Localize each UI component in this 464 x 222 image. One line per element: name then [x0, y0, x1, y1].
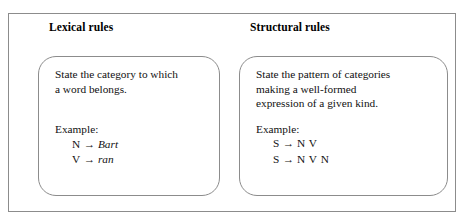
rule-lhs: S: [273, 153, 280, 165]
panel-lexical-rules: Lexical rules State the category to whic…: [38, 14, 220, 211]
description-line: making a well-formed: [256, 82, 439, 97]
arrow-icon: →: [280, 137, 297, 149]
description-line: expression of a given kind.: [256, 96, 439, 111]
rule-line: S→N V N: [273, 152, 439, 168]
example-label-structural: Example:: [256, 122, 439, 137]
description-line: State the category to which: [55, 67, 211, 82]
box-body-lexical: State the category to which a word belon…: [55, 67, 211, 168]
box-body-structural: State the pattern of categories making a…: [256, 67, 439, 167]
figure-outer-border: Lexical rules State the category to whic…: [8, 13, 456, 212]
panel-structural-rules: Structural rules State the pattern of ca…: [239, 14, 448, 211]
arrow-icon: →: [280, 153, 297, 165]
rule-line: N→Bart: [72, 137, 211, 153]
rule-rhs: ran: [98, 153, 114, 165]
rule-line: S→N V: [273, 136, 439, 152]
example-label-lexical: Example:: [55, 122, 211, 137]
rule-rhs: Bart: [98, 138, 118, 150]
rule-rhs: N V N: [297, 153, 329, 165]
rule-lhs: N: [72, 138, 81, 150]
rule-lhs: V: [72, 153, 81, 165]
panel-heading-lexical: Lexical rules: [49, 21, 113, 33]
rule-lhs: S: [273, 137, 280, 149]
rounded-box-lexical: State the category to which a word belon…: [38, 56, 220, 196]
arrow-icon: →: [81, 153, 98, 165]
description-line: State the pattern of categories: [256, 67, 439, 82]
arrow-icon: →: [81, 138, 98, 150]
rule-rhs: N V: [297, 137, 317, 149]
description-line: a word belongs.: [55, 82, 211, 97]
rounded-box-structural: State the pattern of categories making a…: [239, 56, 448, 196]
panel-heading-structural: Structural rules: [250, 21, 330, 33]
figure-canvas: Lexical rules State the category to whic…: [0, 0, 464, 222]
rule-line: V→ran: [72, 152, 211, 168]
